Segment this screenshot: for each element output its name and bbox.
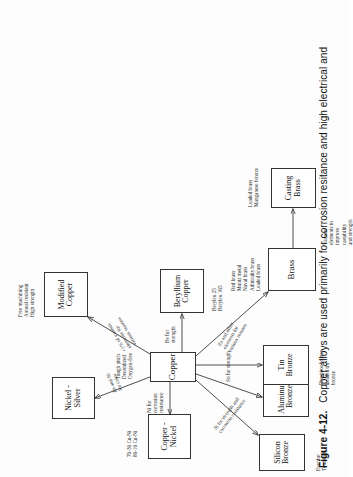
note-brass-grades: Red brass Muntz metal Naval brass Admira… <box>230 258 261 291</box>
node-casting-brass[interactable]: Casting Brass <box>271 168 316 208</box>
node-beryllium-copper-line2: Copper <box>182 275 190 307</box>
edge-label-ni-for-corrosion-resistance: Ni for corrosion resistance <box>146 393 165 413</box>
node-nickel-silver[interactable]: Nickel - Silver <box>52 377 95 419</box>
node-modified-copper[interactable]: Modified Copper <box>44 272 88 317</box>
node-copper-nickel[interactable]: Copper - Nickel <box>148 414 191 459</box>
node-beryllium-copper[interactable]: Beryllium Copper <box>160 269 204 313</box>
figure-caption: Figure 4-12. Copper alloys are used prim… <box>318 8 329 468</box>
node-casting-brass-line2: Brass <box>294 176 302 200</box>
figure-caption-text: Copper alloys are used primarily for cor… <box>318 47 329 403</box>
note-beryllium-copper-grades: Berylco 25 Berylco 165 <box>211 286 223 312</box>
node-tin-bronze-line2: Bronze <box>286 353 294 376</box>
node-copper-label: Copper <box>168 354 177 381</box>
node-copper[interactable]: Copper <box>150 352 196 382</box>
edge-label-sn-for-strength: Sn for strength <box>225 351 231 382</box>
node-brass-label: Brass <box>287 260 296 280</box>
node-silicon-bronze-line2: Bronze <box>282 441 290 464</box>
node-brass[interactable]: Brass <box>268 248 316 291</box>
node-modified-copper-line2: Copper <box>66 280 74 310</box>
figure-caption-wrap: Figure 4-12. Copper alloys are used prim… <box>318 8 349 473</box>
copper-alloy-tree: Copper Nickel - Silver Copper - Nickel M… <box>0 57 349 477</box>
note-copper-nickel-grades: 70-30 Cu-Ni 80-10 Cu-Ni <box>126 431 138 457</box>
note-casting-brass-grades: Leaded brass Manganese bronze <box>247 168 259 207</box>
note-copper-grades: Tough pitch Deoxidized Oxygen-free <box>115 353 134 379</box>
node-silicon-bronze[interactable]: Silicon Bronze <box>259 434 305 471</box>
edge-label-be-for-strength: Be for strength <box>164 326 176 343</box>
node-tin-bronze[interactable]: Tin Bronze <box>263 345 309 385</box>
figure-number: Figure 4-12. <box>318 411 329 468</box>
node-nickel-silver-line2: Silver <box>74 385 82 411</box>
node-copper-nickel-line2: Nickel <box>170 422 178 450</box>
note-modified-copper-grades: Free machining Anneal resistant High str… <box>17 283 36 317</box>
